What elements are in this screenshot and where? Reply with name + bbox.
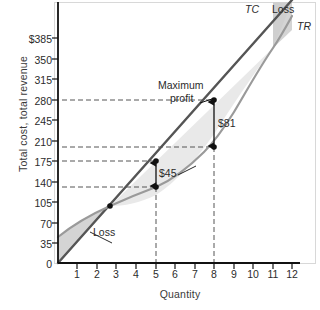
point-breakeven-low xyxy=(107,203,113,209)
x-tick-2: 2 xyxy=(87,268,107,280)
max-profit-label-line1: Maximum xyxy=(158,79,204,91)
point-tr-q8 xyxy=(211,97,217,103)
x-tick-9: 9 xyxy=(224,268,244,280)
marked-points xyxy=(107,97,217,209)
x-tick-4: 4 xyxy=(126,268,146,280)
x-tick-1: 1 xyxy=(67,268,87,280)
tc-curve-label: TC xyxy=(245,3,259,15)
x-axis-title: Quantity xyxy=(120,288,240,300)
gap-label-81: $81 xyxy=(218,117,236,129)
x-tick-12: 12 xyxy=(282,268,302,280)
x-tick-6: 6 xyxy=(165,268,185,280)
profit-region-shading xyxy=(110,48,273,206)
x-tick-10: 10 xyxy=(243,268,263,280)
loss-label-bottom: Loss xyxy=(93,226,115,238)
y-axis-title: Total cost, total revenue xyxy=(17,39,29,189)
gap-label-45: $45 xyxy=(159,167,177,179)
x-tick-3: 3 xyxy=(106,268,126,280)
x-tick-8: 8 xyxy=(204,268,224,280)
x-tick-7: 7 xyxy=(185,268,205,280)
x-tick-11: 11 xyxy=(263,268,283,280)
tr-curve xyxy=(58,0,292,263)
chart-plot-area xyxy=(0,0,320,310)
tr-curve-label: TR xyxy=(297,20,311,32)
point-tr-q5 xyxy=(153,158,159,164)
max-profit-label-line2: profit xyxy=(170,92,193,104)
tc-curve xyxy=(58,16,292,237)
chart-figure: $385 350 315 280 245 210 175 140 105 70 … xyxy=(0,0,320,310)
loss-label-top: Loss xyxy=(272,3,294,15)
x-tick-5: 5 xyxy=(146,268,166,280)
